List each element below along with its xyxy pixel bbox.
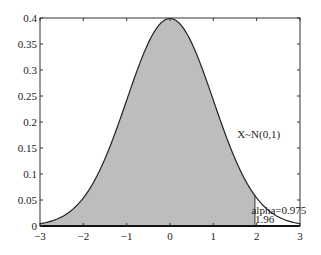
y-tick-label: 0.3 [23,64,37,76]
x-tick-label: 2 [254,230,260,242]
y-tick-label: 0.2 [23,116,37,128]
x-tick-label: 0 [167,230,173,242]
plot-area [40,18,300,226]
y-tick-label: 0.25 [18,90,38,102]
x-tick-label: −1 [121,230,133,242]
normal-distribution-chart: −3−2−10123 00.050.10.150.20.250.30.350.4… [0,0,321,255]
annotation-label: X~N(0,1) [237,128,280,141]
x-tick-label: −2 [77,230,89,242]
annotation-label: 1.96 [255,213,275,225]
shaded-area [40,19,255,226]
y-tick-label: 0.35 [18,38,38,50]
x-tick-label: 1 [211,230,217,242]
y-tick-label: 0 [32,220,38,232]
y-tick-label: 0.15 [18,142,38,154]
y-tick-label: 0.1 [23,168,37,180]
y-tick-label: 0.4 [23,12,37,24]
y-tick-label: 0.05 [18,194,38,206]
x-tick-label: 3 [297,230,303,242]
